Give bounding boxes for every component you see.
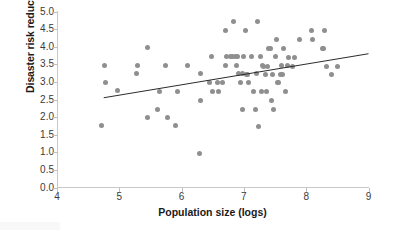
data-point — [145, 115, 150, 120]
y-tick-mark — [53, 12, 57, 13]
x-tick-mark — [244, 188, 245, 192]
data-point — [324, 64, 329, 69]
data-point — [163, 63, 168, 68]
data-point — [259, 89, 264, 94]
x-tick-mark — [306, 188, 307, 192]
data-point — [276, 80, 281, 85]
data-point — [269, 98, 274, 103]
data-point — [234, 63, 239, 68]
y-axis-line — [57, 11, 58, 188]
x-tick-label: 5 — [104, 191, 134, 202]
data-point — [198, 71, 203, 76]
data-point — [258, 54, 263, 59]
y-tick-mark — [53, 100, 57, 101]
data-point — [268, 46, 273, 51]
data-point — [102, 63, 107, 68]
data-point — [329, 72, 334, 77]
data-point — [246, 80, 251, 85]
data-point — [283, 89, 288, 94]
x-tick-label: 4 — [42, 191, 72, 202]
data-point — [278, 72, 283, 77]
data-point — [228, 54, 233, 59]
data-point — [253, 107, 258, 112]
y-tick-label: 1.0 — [20, 147, 54, 157]
data-point — [320, 46, 325, 51]
y-tick-label: 3.5 — [20, 59, 54, 69]
data-point — [145, 45, 150, 50]
data-point — [280, 72, 285, 77]
x-tick-mark — [119, 188, 120, 192]
data-point — [273, 54, 278, 59]
data-point — [233, 54, 238, 59]
x-tick-label: 9 — [354, 191, 384, 202]
data-point — [99, 123, 104, 128]
data-point — [223, 63, 228, 68]
data-point — [210, 89, 215, 94]
data-point — [238, 80, 243, 85]
data-point — [155, 107, 160, 112]
data-point — [231, 19, 236, 24]
data-point — [230, 54, 235, 59]
y-tick-label: 2.0 — [20, 112, 54, 122]
data-point — [220, 80, 225, 85]
x-tick-mark — [57, 188, 58, 192]
y-tick-mark — [53, 135, 57, 136]
y-tick-mark — [53, 82, 57, 83]
y-tick-label: 3.0 — [20, 77, 54, 87]
data-point — [260, 63, 265, 68]
data-point — [292, 55, 297, 60]
data-point — [240, 71, 245, 76]
data-point — [243, 28, 248, 33]
data-point — [321, 46, 326, 51]
data-point — [251, 89, 256, 94]
data-point — [335, 64, 340, 69]
data-point — [256, 124, 261, 129]
data-point — [135, 63, 140, 68]
data-point — [310, 37, 315, 42]
y-tick-mark — [53, 64, 57, 65]
data-point — [241, 54, 246, 59]
data-point — [290, 64, 295, 69]
data-point — [270, 72, 275, 77]
data-point — [224, 54, 229, 59]
data-point — [240, 107, 245, 112]
data-point — [255, 19, 260, 24]
data-point — [175, 89, 180, 94]
y-tick-label: 4.5 — [20, 24, 54, 34]
data-point — [266, 46, 271, 51]
data-point — [271, 107, 276, 112]
y-tick-mark — [53, 152, 57, 153]
y-tick-label: 2.5 — [20, 95, 54, 105]
data-point — [286, 55, 291, 60]
data-point — [254, 71, 259, 76]
data-point — [249, 54, 254, 59]
scatter-chart-figure: Disaster risk reduction score 0.00.51.01… — [0, 0, 408, 232]
data-point — [197, 151, 202, 156]
data-point — [157, 89, 162, 94]
x-axis-label: Population size (logs) — [57, 206, 368, 218]
y-tick-mark — [53, 47, 57, 48]
x-tick-label: 8 — [291, 191, 321, 202]
data-point — [263, 72, 268, 77]
data-point — [209, 54, 214, 59]
data-point — [198, 98, 203, 103]
data-point — [322, 28, 327, 33]
y-tick-label: 4.0 — [20, 42, 54, 52]
y-tick-mark — [53, 117, 57, 118]
data-point — [274, 37, 279, 42]
data-point — [265, 64, 270, 69]
data-point — [165, 115, 170, 120]
data-point — [244, 72, 249, 77]
x-tick-mark — [182, 188, 183, 192]
data-point — [297, 37, 302, 42]
data-point — [245, 72, 250, 77]
x-tick-label: 7 — [229, 191, 259, 202]
page-edge-artifact — [0, 222, 60, 230]
data-point — [285, 63, 290, 68]
data-point — [264, 89, 269, 94]
data-point — [115, 88, 120, 93]
y-tick-label: 5.0 — [20, 7, 54, 17]
data-point — [173, 123, 178, 128]
data-point — [261, 64, 266, 69]
x-axis-line — [57, 187, 369, 188]
